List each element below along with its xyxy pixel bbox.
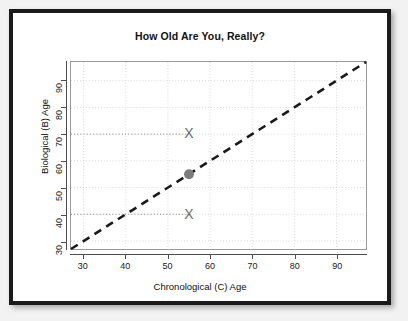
x-tick-mark [252,254,253,259]
series-identity-line [71,62,366,249]
x-tick-label: 90 [325,261,349,271]
y-tick-label: 70 [54,133,64,151]
x-tick-mark [210,254,211,259]
x-tick-label: 80 [283,261,307,271]
data-layer [71,62,366,249]
series-younger-biological-age: X [181,206,197,222]
x-tick-label: 40 [113,261,137,271]
x-tick-label: 70 [240,261,264,271]
y-axis-line [66,61,67,250]
x-axis-label: Chronological (C) Age [13,281,387,292]
y-tick-label: 90 [54,79,64,97]
y-tick-label: 30 [54,241,64,259]
framed-image-border: How Old Are You, Really? Biological (B) … [9,9,391,305]
series-actual-age-point [184,169,194,179]
x-tick-mark [125,254,126,259]
x-tick-label: 30 [71,261,95,271]
screenshot-root: How Old Are You, Really? Biological (B) … [0,0,408,321]
plot-panel [70,61,367,250]
x-tick-label: 60 [198,261,222,271]
x-tick-label: 50 [156,261,180,271]
x-tick-mark [168,254,169,259]
y-tick-label: 50 [54,187,64,205]
chart-title: How Old Are You, Really? [13,30,387,42]
chart-figure: How Old Are You, Really? Biological (B) … [13,13,387,301]
x-tick-mark [83,254,84,259]
series-older-biological-age: X [181,125,197,141]
x-axis-line [70,254,367,255]
x-tick-mark [295,254,296,259]
y-tick-label: 40 [54,214,64,232]
y-tick-label: 60 [54,160,64,178]
x-tick-mark [337,254,338,259]
y-tick-label: 80 [54,106,64,124]
